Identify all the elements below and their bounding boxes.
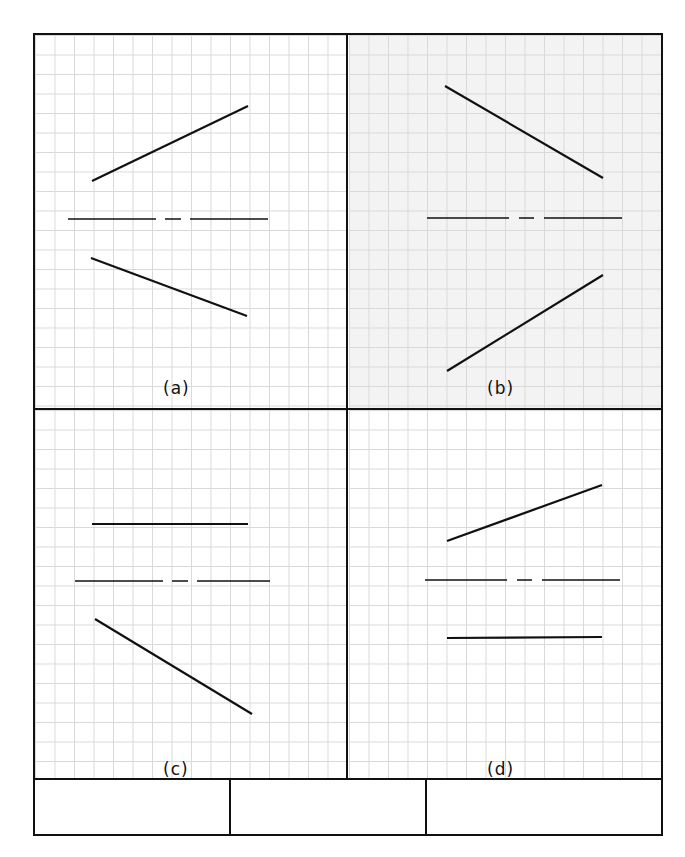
lower-line [447,275,603,371]
panel-a: (a) [35,35,347,408]
panel-b-drawing [349,35,661,408]
panel-c: (c) [35,410,347,779]
panel-d-drawing [349,410,661,779]
panel-label-c: (c) [163,759,189,779]
lower-line [447,637,602,638]
panel-d: (d) [349,410,661,779]
title-block-cell-3 [427,780,661,834]
title-block-cell-1 [35,780,229,834]
upper-line [447,485,602,541]
upper-line [92,106,248,181]
upper-line [445,86,603,178]
panel-b: (b) [349,35,661,408]
panel-a-drawing [35,35,347,408]
panel-label-d: (d) [487,759,514,779]
lower-line [91,258,247,316]
panel-label-b: (b) [487,378,514,398]
lower-line [95,619,252,714]
vertical-divider [346,33,348,779]
panel-c-drawing [35,410,347,779]
title-block-cell-2 [231,780,425,834]
panel-label-a: (a) [163,378,190,398]
horizontal-divider-middle [33,408,663,410]
